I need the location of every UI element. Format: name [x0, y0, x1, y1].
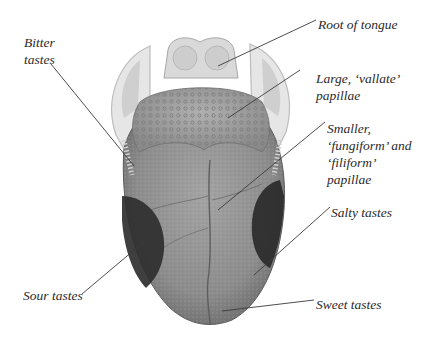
- label-bitter-tastes: Bitter tastes: [24, 34, 55, 68]
- epiglottis: [164, 38, 238, 78]
- label-line: tastes: [24, 51, 55, 68]
- label-line: Smaller,: [327, 120, 411, 137]
- label-sweet-tastes: Sweet tastes: [316, 296, 382, 313]
- label-sour-tastes: Sour tastes: [23, 287, 83, 304]
- label-line: ‘fungiform’ and: [327, 137, 411, 154]
- label-fungiform-papillae: Smaller, ‘fungiform’ and ‘filiform’ papi…: [327, 120, 411, 188]
- label-line: papillae: [316, 87, 400, 104]
- label-line: ‘filiform’: [327, 154, 411, 171]
- label-root-of-tongue: Root of tongue: [318, 16, 398, 33]
- vallate-papillae-region: [133, 88, 270, 152]
- label-line: Large, ‘vallate’: [316, 70, 400, 87]
- label-vallate-papillae: Large, ‘vallate’ papillae: [316, 70, 400, 104]
- label-salty-tastes: Salty tastes: [331, 204, 392, 221]
- label-line: Bitter: [24, 34, 55, 51]
- label-line: papillae: [327, 171, 411, 188]
